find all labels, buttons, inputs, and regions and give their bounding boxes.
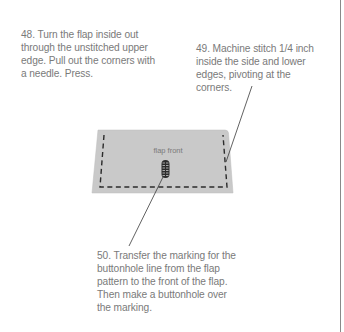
flap-diagram bbox=[0, 0, 344, 332]
buttonhole-icon bbox=[162, 160, 170, 178]
leader-line-step-49 bbox=[226, 86, 252, 162]
page-divider bbox=[340, 0, 341, 332]
flap-front-label: flap front bbox=[150, 146, 186, 155]
